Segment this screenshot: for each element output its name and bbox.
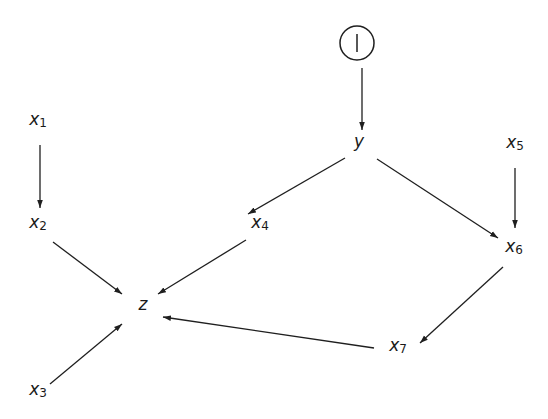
edge-x7-to-z bbox=[163, 317, 374, 348]
node-label-x1: x1 bbox=[28, 109, 47, 130]
node-label-x3: x3 bbox=[28, 379, 47, 400]
diagram-canvas: yx1x2x3x4x5x6x7z bbox=[0, 0, 548, 419]
node-subscript: 6 bbox=[515, 243, 523, 257]
node-label-z: z bbox=[138, 294, 149, 314]
node-label-y: y bbox=[353, 131, 365, 151]
edge-x4-to-z bbox=[158, 240, 246, 294]
node-label-x5: x5 bbox=[505, 132, 524, 153]
edges-layer bbox=[40, 68, 515, 384]
node-subscript: 2 bbox=[39, 219, 47, 233]
node-x2: x2 bbox=[28, 212, 47, 233]
edge-y-to-x6 bbox=[377, 159, 498, 238]
node-x4: x4 bbox=[250, 212, 269, 233]
edge-y-to-x4 bbox=[248, 158, 345, 214]
node-label-x2: x2 bbox=[28, 212, 47, 233]
node-x3: x3 bbox=[28, 379, 47, 400]
node-x1: x1 bbox=[28, 109, 47, 130]
node-subscript: 7 bbox=[399, 342, 407, 356]
edge-x3-to-z bbox=[50, 324, 122, 384]
node-subscript: 3 bbox=[39, 386, 47, 400]
node-z: z bbox=[138, 294, 149, 314]
edge-x2-to-z bbox=[53, 242, 122, 294]
node-subscript: 4 bbox=[261, 219, 269, 233]
node-I bbox=[340, 26, 374, 60]
node-label-x7: x7 bbox=[388, 335, 407, 356]
node-x5: x5 bbox=[505, 132, 524, 153]
edge-x6-to-x7 bbox=[420, 267, 503, 343]
node-label-x4: x4 bbox=[250, 212, 269, 233]
causal-diagram: yx1x2x3x4x5x6x7z bbox=[0, 0, 548, 419]
node-x7: x7 bbox=[388, 335, 407, 356]
node-x6: x6 bbox=[504, 236, 523, 257]
node-subscript: 5 bbox=[516, 139, 524, 153]
node-subscript: 1 bbox=[39, 116, 47, 130]
nodes-layer: yx1x2x3x4x5x6x7z bbox=[28, 26, 524, 400]
node-y: y bbox=[353, 131, 365, 151]
node-label-x6: x6 bbox=[504, 236, 523, 257]
